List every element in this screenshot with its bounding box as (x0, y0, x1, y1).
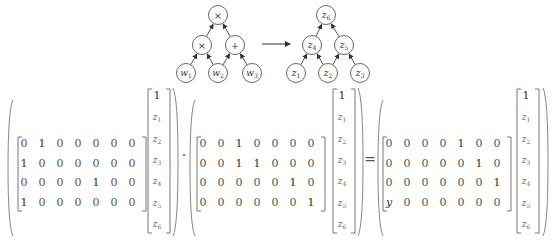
matrix-cell: 0 (129, 196, 136, 209)
vector-entry: 1 (339, 89, 346, 102)
matrix-cell: 0 (75, 176, 82, 189)
matrix-cell: 0 (200, 196, 207, 209)
matrix-cell: 0 (422, 196, 429, 209)
matrix-cell: 0 (458, 176, 465, 189)
matrix-product-group-1: 01000001000000000010010000001z1z2z3z4z5z… (8, 88, 178, 236)
var-node-z5: z5 (335, 36, 354, 55)
matrix-cell: 0 (218, 176, 225, 189)
matrix-cell: 0 (57, 176, 64, 189)
multiply-operator: · (182, 147, 186, 163)
matrix-cell: 0 (111, 157, 118, 170)
graph-edge (206, 24, 213, 36)
computation-graph-tree: ××+w1w2w3 (177, 6, 262, 83)
matrix-cell: 1 (236, 157, 243, 170)
matrix-cell: 0 (111, 196, 118, 209)
op-node-add: + (226, 36, 245, 55)
matrix-product-group-3: 000010000000100000001y0000001z1z2z3z4z5z… (378, 88, 548, 236)
matrix-cell: 0 (494, 196, 501, 209)
matrix-cell: 0 (386, 157, 393, 170)
vector-entry: z3 (521, 155, 531, 166)
graph-edge (207, 54, 213, 65)
matrix-cell: 0 (218, 137, 225, 150)
coefficient-matrix-C: 000010000000100000001y000000 (383, 137, 511, 211)
var-node-z6: z6 (317, 6, 336, 25)
node-label: + (231, 40, 239, 51)
matrix-cell: 0 (440, 157, 447, 170)
matrix-cell: 0 (254, 137, 261, 150)
matrix-cell: 0 (440, 176, 447, 189)
matrix-cell: 0 (129, 157, 136, 170)
matrix-cell: 0 (39, 176, 46, 189)
matrix-cell: 0 (476, 196, 483, 209)
matrix-cell: 0 (308, 137, 315, 150)
graph-edge (317, 54, 323, 65)
matrix-cell: 0 (476, 137, 483, 150)
matrix-cell: 1 (21, 157, 28, 170)
coefficient-matrix-A: 0100000100000000001001000000 (18, 137, 146, 211)
op-node-mul: × (193, 36, 212, 55)
matrix-cell: 0 (254, 176, 261, 189)
matrix-cell: 0 (404, 137, 411, 150)
graph-edge (191, 54, 197, 65)
var-node-z3: z3 (351, 64, 370, 83)
matrix-cell: 1 (39, 137, 46, 150)
matrix-cell: 0 (200, 157, 207, 170)
matrix-cell: 0 (75, 196, 82, 209)
graph-edge (333, 54, 339, 65)
vector-entry: z1 (152, 112, 162, 123)
vector-entry: z5 (337, 198, 347, 209)
matrix-cell: 0 (254, 196, 261, 209)
matrix-cell: 0 (440, 196, 447, 209)
graph-edge (223, 54, 230, 65)
matrix-cell: 0 (290, 196, 297, 209)
matrix-cell: 0 (39, 196, 46, 209)
vector-entry: z5 (152, 198, 162, 209)
op-node-w2: w2 (209, 64, 228, 83)
matrix-cell: 0 (422, 137, 429, 150)
vector-entry: z6 (521, 219, 531, 230)
node-label: × (198, 40, 206, 51)
variable-graph-tree: z6z4z5z1z2z3 (287, 6, 370, 83)
coefficient-matrix-B: 0010000001100000000100000001 (197, 137, 325, 211)
matrix-cell: 0 (290, 157, 297, 170)
state-vector: 1z1z2z3z4z5z6 (333, 89, 355, 233)
vector-entry: z6 (337, 219, 347, 230)
matrix-cell: 0 (57, 157, 64, 170)
diagram-canvas: ××+w1w2w3 z6z4z5z1z2z3 01000001000000000… (0, 0, 553, 241)
vector-entry: z2 (521, 134, 531, 145)
graph-edge (301, 54, 307, 65)
matrix-cell: 0 (39, 157, 46, 170)
matrix-cell: 0 (386, 137, 393, 150)
matrix-product-group-2: 00100000011000000001000000011z1z2z3z4z5z… (190, 88, 363, 236)
op-node-w1: w1 (177, 64, 196, 83)
op-node-w3: w3 (243, 64, 262, 83)
vector-entry: 1 (154, 89, 161, 102)
matrix-cell: 0 (494, 157, 501, 170)
matrix-cell: y (385, 196, 393, 209)
vector-entry: z3 (152, 155, 162, 166)
vector-entry: z5 (521, 198, 531, 209)
matrix-cell: 0 (422, 176, 429, 189)
matrix-cell: 0 (272, 196, 279, 209)
matrix-cell: 1 (290, 176, 297, 189)
matrix-cell: 0 (200, 137, 207, 150)
vector-entry: z4 (521, 176, 531, 187)
matrix-cell: 0 (129, 137, 136, 150)
matrix-cell: 0 (21, 137, 28, 150)
matrix-cell: 1 (494, 176, 501, 189)
matrix-cell: 0 (236, 196, 243, 209)
matrix-cell: 0 (272, 176, 279, 189)
matrix-cell: 0 (290, 137, 297, 150)
vector-entry: z4 (337, 176, 347, 187)
graph-edge (331, 24, 339, 37)
var-node-z1: z1 (287, 64, 306, 83)
matrix-cell: 0 (111, 137, 118, 150)
op-node-root: × (209, 6, 228, 25)
matrix-cell: 1 (476, 157, 483, 170)
matrix-cell: 0 (218, 157, 225, 170)
matrix-cell: 0 (458, 157, 465, 170)
matrix-cell: 0 (458, 196, 465, 209)
var-node-z2: z2 (319, 64, 338, 83)
vector-entry: z4 (152, 176, 162, 187)
matrix-equation: 01000001000000000010010000001z1z2z3z4z5z… (8, 88, 548, 236)
